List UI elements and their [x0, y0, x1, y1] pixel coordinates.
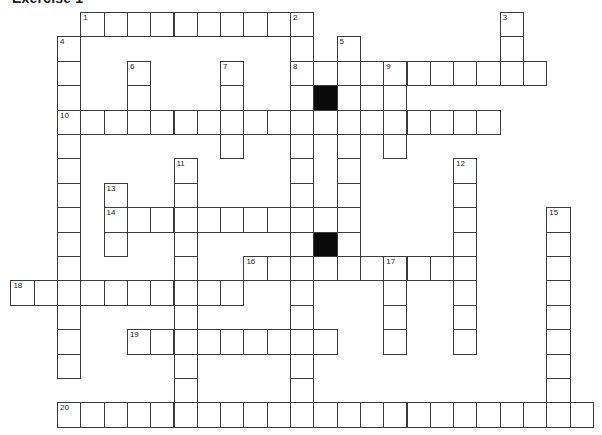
crossword-cell[interactable] [243, 12, 267, 37]
crossword-cell[interactable] [243, 110, 267, 135]
crossword-cell[interactable]: 8 [290, 61, 314, 86]
crossword-cell[interactable] [500, 36, 524, 61]
crossword-cell[interactable] [290, 329, 314, 354]
crossword-cell[interactable] [360, 110, 384, 135]
crossword-cell[interactable] [453, 61, 477, 86]
crossword-cell[interactable] [290, 134, 314, 159]
crossword-cell[interactable] [150, 12, 174, 37]
crossword-cell[interactable] [197, 12, 221, 37]
crossword-cell[interactable] [220, 280, 244, 305]
crossword-cell[interactable] [337, 134, 361, 159]
crossword-cell[interactable] [127, 110, 151, 135]
crossword-cell[interactable]: 16 [243, 256, 267, 281]
crossword-cell[interactable] [500, 61, 524, 86]
crossword-cell[interactable]: 15 [546, 207, 570, 232]
crossword-cell[interactable] [197, 329, 221, 354]
crossword-cell[interactable] [290, 354, 314, 379]
crossword-cell[interactable] [337, 402, 361, 427]
crossword-cell[interactable] [267, 207, 291, 232]
crossword-cell[interactable] [383, 402, 407, 427]
crossword-cell[interactable] [57, 61, 81, 86]
crossword-cell[interactable] [453, 305, 477, 330]
crossword-cell[interactable] [546, 354, 570, 379]
crossword-cell[interactable] [290, 256, 314, 281]
crossword-cell[interactable] [243, 329, 267, 354]
crossword-cell[interactable]: 12 [453, 158, 477, 183]
crossword-cell[interactable] [243, 207, 267, 232]
crossword-cell[interactable] [453, 402, 477, 427]
crossword-cell[interactable] [337, 207, 361, 232]
crossword-cell[interactable] [57, 158, 81, 183]
crossword-cell[interactable] [174, 207, 198, 232]
crossword-cell[interactable] [360, 61, 384, 86]
crossword-cell[interactable] [127, 85, 151, 110]
crossword-cell[interactable] [57, 207, 81, 232]
crossword-cell[interactable] [546, 329, 570, 354]
crossword-cell[interactable] [453, 256, 477, 281]
crossword-cell[interactable] [290, 402, 314, 427]
crossword-cell[interactable] [267, 402, 291, 427]
crossword-cell[interactable] [476, 402, 500, 427]
crossword-cell[interactable] [150, 402, 174, 427]
crossword-cell[interactable]: 18 [10, 280, 34, 305]
crossword-cell[interactable] [430, 256, 454, 281]
crossword-cell[interactable] [337, 61, 361, 86]
crossword-cell[interactable]: 1 [80, 12, 104, 37]
crossword-cell[interactable] [220, 12, 244, 37]
crossword-cell[interactable] [453, 280, 477, 305]
crossword-cell[interactable] [80, 280, 104, 305]
crossword-cell[interactable] [523, 61, 547, 86]
crossword-cell[interactable] [57, 85, 81, 110]
crossword-cell[interactable] [290, 305, 314, 330]
crossword-cell[interactable] [453, 207, 477, 232]
crossword-cell[interactable]: 10 [57, 110, 81, 135]
crossword-cell[interactable] [407, 402, 431, 427]
crossword-cell[interactable] [383, 305, 407, 330]
crossword-cell[interactable] [220, 207, 244, 232]
crossword-cell[interactable] [197, 280, 221, 305]
crossword-cell[interactable] [197, 207, 221, 232]
crossword-cell[interactable] [243, 402, 267, 427]
crossword-cell[interactable] [546, 305, 570, 330]
crossword-cell[interactable] [127, 12, 151, 37]
crossword-cell[interactable] [174, 232, 198, 257]
crossword-cell[interactable] [290, 183, 314, 208]
crossword-cell[interactable]: 3 [500, 12, 524, 37]
crossword-cell[interactable] [313, 61, 337, 86]
crossword-cell[interactable] [220, 402, 244, 427]
crossword-cell[interactable] [174, 378, 198, 403]
crossword-cell[interactable] [453, 232, 477, 257]
crossword-cell[interactable] [150, 110, 174, 135]
crossword-cell[interactable] [546, 232, 570, 257]
crossword-cell[interactable] [313, 402, 337, 427]
crossword-cell[interactable] [267, 329, 291, 354]
crossword-cell[interactable] [57, 183, 81, 208]
crossword-cell[interactable] [104, 280, 128, 305]
crossword-cell[interactable] [220, 110, 244, 135]
crossword-cell[interactable] [523, 402, 547, 427]
crossword-cell[interactable] [453, 183, 477, 208]
crossword-cell[interactable]: 17 [383, 256, 407, 281]
crossword-cell[interactable] [476, 61, 500, 86]
crossword-cell[interactable] [197, 110, 221, 135]
crossword-cell[interactable] [500, 402, 524, 427]
crossword-cell[interactable]: 19 [127, 329, 151, 354]
crossword-cell[interactable] [150, 329, 174, 354]
crossword-cell[interactable] [57, 232, 81, 257]
crossword-cell[interactable] [290, 232, 314, 257]
crossword-cell[interactable] [174, 402, 198, 427]
crossword-cell[interactable] [290, 110, 314, 135]
crossword-cell[interactable] [220, 329, 244, 354]
crossword-cell[interactable] [337, 85, 361, 110]
crossword-cell[interactable] [313, 329, 337, 354]
crossword-cell[interactable] [57, 256, 81, 281]
crossword-cell[interactable] [546, 402, 570, 427]
crossword-cell[interactable] [383, 134, 407, 159]
crossword-cell[interactable]: 11 [174, 158, 198, 183]
crossword-cell[interactable] [174, 280, 198, 305]
crossword-cell[interactable] [570, 402, 594, 427]
crossword-cell[interactable]: 6 [127, 61, 151, 86]
crossword-cell[interactable] [220, 134, 244, 159]
crossword-cell[interactable] [290, 85, 314, 110]
crossword-cell[interactable] [220, 85, 244, 110]
